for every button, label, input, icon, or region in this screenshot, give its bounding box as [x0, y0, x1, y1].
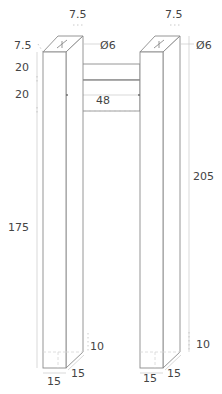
label-right-base-height: 10 [196, 338, 210, 351]
label-bar-length: 48 [96, 94, 110, 107]
label-left-top-depth: 7.5 [14, 39, 32, 52]
right-post-front-face [140, 52, 163, 368]
label-bar-height: 20 [15, 88, 29, 101]
label-right-base-width: 15 [143, 372, 157, 385]
left-post-front-face [43, 52, 66, 368]
label-post-height-right: 205 [193, 170, 214, 183]
label-right-hole-diameter: Ø6 [196, 39, 212, 52]
left-post [43, 36, 83, 368]
label-post-height-left: 175 [8, 221, 29, 234]
label-upper-offset: 20 [15, 61, 29, 74]
label-right-base-depth: 15 [167, 367, 181, 380]
left-post-side-face [66, 36, 83, 368]
right-post-side-face [163, 36, 180, 368]
label-left-base-depth: 15 [71, 367, 85, 380]
label-left-hole-diameter: Ø6 [100, 39, 116, 52]
technical-drawing: 7.5 7.5 7.5 Ø6 Ø6 20 20 48 175 205 10 10… [0, 0, 222, 394]
right-post [140, 36, 180, 368]
label-left-base-width: 15 [47, 375, 61, 388]
label-left-base-height: 10 [90, 340, 104, 353]
label-right-top-width: 7.5 [165, 8, 183, 21]
label-left-top-width: 7.5 [69, 8, 87, 21]
